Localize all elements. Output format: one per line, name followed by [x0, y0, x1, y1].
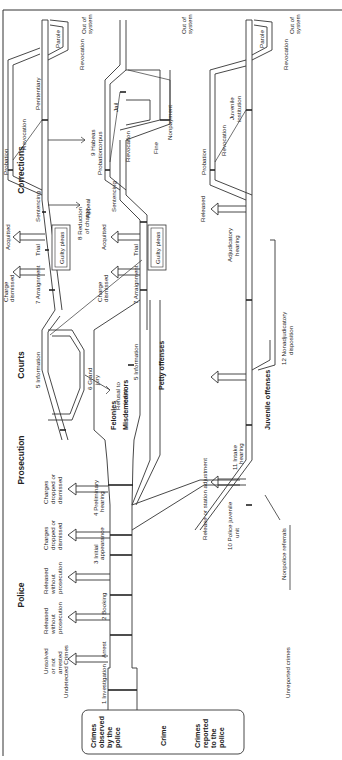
exit-released-juvenile: Released: [199, 195, 246, 222]
prosecution-trunk: [105, 440, 134, 535]
exit-out-of-system-1: Out of system: [80, 14, 93, 34]
svg-text:Charges: Charges: [42, 527, 49, 550]
svg-text:Unsolved: Unsolved: [42, 648, 49, 674]
svg-text:9 Habeas: 9 Habeas: [89, 130, 96, 157]
svg-text:arrested: arrested: [56, 651, 63, 674]
step-grand-jury: 6 Grand jury: [86, 367, 100, 390]
svg-text:disposition: disposition: [287, 325, 294, 355]
svg-text:hearing: hearing: [233, 235, 240, 256]
svg-text:corpus: corpus: [96, 131, 103, 150]
node-probation-juvenile: Probation: [200, 148, 207, 175]
felony-court: [42, 212, 70, 290]
step-information-felony: 5 Information: [34, 351, 41, 388]
node-guilty-pleas-misd: Guilty pleas: [154, 232, 161, 264]
node-penitentiary: Penitentiary: [34, 76, 41, 110]
unreported-crimes-label: Unreported crimes: [284, 647, 291, 698]
svg-text:unit: unit: [233, 528, 240, 538]
node-trial-misd: Trial: [132, 244, 139, 256]
svg-text:system: system: [86, 14, 93, 34]
svg-text:dropped or: dropped or: [49, 474, 56, 504]
step-arraignment-felony: 7 Arraignment: [34, 265, 41, 304]
header-corrections: Corrections: [16, 146, 26, 194]
svg-text:Release or station adjustment: Release or station adjustment: [201, 458, 208, 540]
svg-text:Released: Released: [199, 195, 206, 222]
node-sentencing-felony: Sentencing: [34, 190, 41, 222]
node-probation-misd: Probation: [96, 148, 103, 175]
node-nonpayment: Nonpayment: [166, 105, 173, 140]
node-trial-felony: Trial: [34, 244, 41, 256]
node-jail: Jail: [112, 103, 119, 112]
svg-text:dismissed: dismissed: [56, 476, 63, 504]
nonpolice-referrals: Nonpolice referrals: [265, 495, 290, 590]
category-misdemeanors: Misdemeanors: [121, 380, 130, 430]
svg-text:of charge: of charge: [83, 208, 90, 234]
category-petty: Petty offenses: [157, 341, 166, 390]
svg-text:Acquitted: Acquitted: [100, 224, 107, 250]
exit-unsolved: Unsolved or not arrested: [42, 648, 108, 674]
svg-text:Acquitted: Acquitted: [4, 224, 11, 250]
svg-text:prosecution: prosecution: [56, 601, 63, 634]
svg-text:Nonpolice referrals: Nonpolice referrals: [280, 528, 287, 580]
node-revocation-parole-felony: Revocation: [78, 38, 85, 70]
adjudicatory-hearing: Adjudicatory hearing: [226, 227, 240, 262]
svg-text:prosecution: prosecution: [56, 561, 63, 594]
step-nonadjudicatory: 12 Nonadjudicatory disposition: [280, 311, 294, 365]
header-police: Police: [16, 582, 26, 607]
exit-intake-release: [211, 371, 246, 383]
exit-out-of-system-2: Out of system: [180, 14, 193, 34]
svg-text:without: without: [49, 614, 56, 635]
node-parole-felony: Parole: [54, 30, 61, 48]
svg-text:hearing: hearing: [98, 491, 105, 512]
node-guilty-pleas-felony: Guilty pleas: [58, 232, 65, 264]
svg-text:Released: Released: [42, 607, 49, 634]
svg-text:system: system: [294, 14, 301, 34]
node-revocation-misd: Revocation: [124, 130, 131, 162]
node-juvenile-institution: Juvenile institution: [228, 95, 242, 122]
step-police-juvenile-unit: 10 Police juvenile unit: [226, 501, 240, 550]
svg-text:dropped or: dropped or: [49, 520, 56, 550]
step-arraignment-misd: 7 Arraignment: [132, 265, 139, 304]
svg-text:Juvenile: Juvenile: [228, 97, 235, 120]
step-arrest: Arrest: [100, 641, 107, 658]
svg-text:dismissed: dismissed: [8, 274, 15, 302]
habeas-corpus: 9 Habeas corpus: [48, 130, 103, 157]
step-preliminary-hearing: 4 Preliminary hearing: [92, 479, 105, 516]
svg-text:institution: institution: [235, 95, 242, 122]
svg-text:6 Grand: 6 Grand: [86, 367, 93, 390]
header-prosecution: Prosecution: [16, 435, 26, 484]
node-fine: Fine: [152, 141, 159, 154]
undetected-crimes-label: Undetected Crimes: [62, 645, 69, 698]
crime-label: Crime: [159, 726, 168, 746]
svg-text:8 Reduction: 8 Reduction: [76, 206, 83, 240]
nonpayment-arrow: [128, 70, 170, 120]
svg-text:system: system: [186, 14, 193, 34]
svg-text:police: police: [113, 727, 122, 748]
svg-text:without: without: [49, 574, 56, 595]
exit-released-2: Released without prosecution: [42, 561, 110, 595]
svg-text:dismissed: dismissed: [56, 522, 63, 550]
category-felonies: Felonies: [109, 401, 118, 430]
header-courts: Courts: [16, 351, 26, 379]
node-parole-juvenile: Parole: [258, 30, 265, 48]
node-probation-felony: Probation: [2, 148, 9, 175]
svg-text:Adjudicatory: Adjudicatory: [226, 227, 233, 262]
svg-text:hearing: hearing: [237, 443, 244, 464]
step-investigation: 1 Investigation: [100, 664, 107, 704]
svg-text:police: police: [217, 727, 226, 748]
svg-text:12 Nonadjudicatory: 12 Nonadjudicatory: [280, 311, 287, 365]
svg-text:10 Police juvenile: 10 Police juvenile: [226, 501, 233, 550]
svg-text:Released: Released: [42, 567, 49, 594]
justice-flowchart: Police Prosecution Courts Corrections Cr…: [0, 0, 342, 760]
step-information-misdemeanor: 5 Information: [132, 343, 139, 380]
node-revocation-parole-juvenile: Revocation: [282, 38, 289, 70]
revocation-arrow-felony: [13, 120, 42, 160]
svg-text:or not: or not: [49, 658, 56, 674]
category-juvenile: Juvenile offenses: [263, 370, 272, 430]
exit-out-of-system-3: Out of system: [288, 14, 301, 34]
step-booking: 2 Booking: [100, 592, 107, 620]
svg-text:Charges: Charges: [42, 481, 49, 504]
